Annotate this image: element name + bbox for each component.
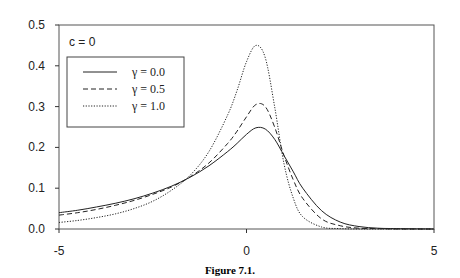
legend-box: [67, 57, 184, 127]
y-tick-label: 0.5: [28, 18, 45, 32]
line-chart: 0.00.10.20.30.40.5-505c = 0γ = 0.0γ = 0.…: [0, 0, 460, 278]
annotation: c = 0: [69, 35, 96, 49]
legend-label: γ = 0.0: [131, 65, 165, 79]
legend-label: γ = 0.5: [131, 82, 165, 96]
y-tick-label: 0.2: [28, 140, 45, 154]
chart: 0.00.10.20.30.40.5-505c = 0γ = 0.0γ = 0.…: [0, 0, 460, 278]
figure-caption: Figure 7.1.: [0, 264, 460, 276]
x-tick-label: 0: [243, 244, 250, 258]
y-tick-label: 0.4: [28, 59, 45, 73]
x-tick-label: 5: [431, 244, 438, 258]
y-tick-label: 0.0: [28, 222, 45, 236]
y-tick-label: 0.1: [28, 181, 45, 195]
x-tick-label: -5: [54, 244, 65, 258]
legend-label: γ = 1.0: [131, 99, 165, 113]
y-tick-label: 0.3: [28, 100, 45, 114]
